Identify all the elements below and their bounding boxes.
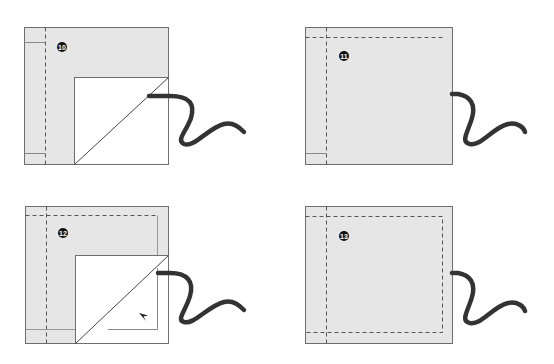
cord [158, 273, 244, 322]
fabric-square [306, 28, 453, 165]
step-12-panel: 12 [26, 207, 245, 344]
step-10-badge: 10 [57, 42, 67, 52]
cord [452, 273, 525, 323]
step-11-panel: 11 [306, 28, 526, 165]
step-12-badge: 12 [58, 228, 68, 238]
cord [452, 94, 525, 144]
instruction-diagram: 10 11 12 [0, 0, 554, 364]
step-13-number: 13 [340, 233, 348, 240]
step-10-number: 10 [58, 44, 66, 51]
step-13-badge: 13 [339, 231, 349, 241]
step-12-number: 12 [59, 230, 67, 237]
step-10-panel: 10 [25, 28, 245, 165]
fabric-square [306, 207, 453, 344]
step-13-panel: 13 [306, 207, 526, 344]
step-11-number: 11 [340, 53, 348, 60]
step-11-badge: 11 [339, 51, 349, 61]
